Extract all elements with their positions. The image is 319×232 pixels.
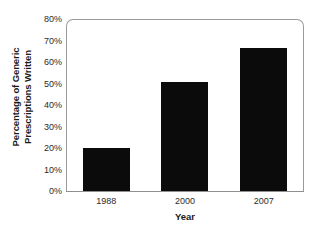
y-axis-tick-label: 20%: [44, 143, 62, 153]
x-axis-tick-labels: 1988 2000 2007: [67, 195, 303, 209]
y-axis-tick-label: 40%: [44, 100, 62, 110]
y-axis-tick-label: 70%: [44, 36, 62, 46]
bar-1988[interactable]: [83, 148, 130, 191]
bar-chart: Percentage of Generic Prescriptions Writ…: [0, 0, 319, 232]
y-axis-tick-label: 10%: [44, 165, 62, 175]
x-axis-tick-label: 1988: [67, 195, 146, 209]
y-axis-tick-label: 30%: [44, 122, 62, 132]
bars-container: [67, 20, 303, 191]
bar-slot: [146, 20, 225, 191]
y-axis-tick-label: 80%: [44, 14, 62, 24]
bar-2000[interactable]: [161, 82, 208, 191]
bar-slot: [67, 20, 146, 191]
y-axis-tick-label: 50%: [44, 79, 62, 89]
y-axis-tick-label: 60%: [44, 57, 62, 67]
x-axis-tick-label: 2000: [146, 195, 225, 209]
x-axis-tick-label: 2007: [224, 195, 303, 209]
y-axis-tick-label: 0%: [49, 186, 62, 196]
y-axis-title-line-1: Percentage of Generic: [10, 48, 22, 147]
bar-2007[interactable]: [240, 48, 287, 191]
bar-slot: [224, 20, 303, 191]
y-axis-tick-labels: 80% 70% 60% 50% 40% 30% 20% 10% 0%: [28, 19, 62, 191]
x-axis-baseline: [66, 191, 304, 192]
x-axis-title: Year: [66, 211, 304, 223]
